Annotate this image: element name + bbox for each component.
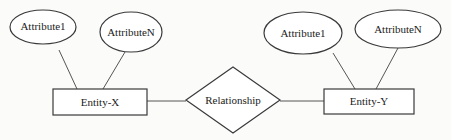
edge-yattrn-entityy <box>376 48 398 89</box>
attribute-y-1: Attribute1 <box>264 12 342 54</box>
entity-label: Entity-X <box>81 96 120 108</box>
entity-y: Entity-Y <box>324 89 414 114</box>
relationship-label: Relationship <box>205 94 261 106</box>
attribute-label: AttributeN <box>107 26 155 38</box>
relationship: Relationship <box>186 67 280 133</box>
attribute-y-n: AttributeN <box>355 10 441 48</box>
attribute-label: Attribute1 <box>20 20 65 32</box>
edge-yattr1-entityy <box>333 53 355 89</box>
attribute-label: AttributeN <box>374 23 422 35</box>
attribute-x-1: Attribute1 <box>10 10 76 44</box>
edge-xattr1-entityx <box>59 50 77 89</box>
er-diagram: Attribute1 AttributeN Attribute1 Attribu… <box>0 0 451 140</box>
attribute-x-n: AttributeN <box>100 12 162 52</box>
edge-xattrn-entityx <box>103 52 125 89</box>
entity-label: Entity-Y <box>350 95 389 107</box>
entity-x: Entity-X <box>53 89 147 115</box>
attribute-label: Attribute1 <box>280 27 325 39</box>
